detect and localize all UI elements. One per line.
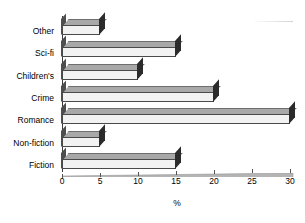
x-tick-label-0: 0 — [52, 176, 72, 186]
y-axis-label-children-s: Children's — [0, 72, 54, 81]
bar-front-face — [62, 25, 100, 35]
bar-front-face — [62, 47, 176, 57]
y-axis-label-romance: Romance — [0, 116, 54, 125]
bar-end-cap — [213, 79, 219, 102]
x-tick-30 — [290, 169, 291, 173]
x-tick-15 — [176, 171, 177, 175]
x-tick-label-10: 10 — [128, 176, 148, 186]
bar-end-cap — [289, 102, 295, 125]
y-axis-label-crime: Crime — [0, 94, 54, 103]
x-tick-label-20: 20 — [204, 176, 224, 186]
y-axis-label-fiction: Fiction — [0, 161, 54, 170]
y-axis-label-other: Other — [0, 27, 54, 36]
bar-end-cap — [175, 146, 181, 169]
bar-front-face — [62, 114, 290, 124]
y-axis-category-labels: OtherSci-fiChildren'sCrimeRomanceNon-fic… — [0, 14, 58, 172]
x-tick-20 — [214, 170, 215, 174]
x-tick-25 — [252, 169, 253, 173]
y-axis-label-sci-fi: Sci-fi — [0, 49, 54, 58]
chart-container: OtherSci-fiChildren'sCrimeRomanceNon-fic… — [0, 0, 305, 223]
bar-front-face — [62, 70, 138, 80]
x-tick-label-25: 25 — [242, 176, 262, 186]
y-axis-label-non-fiction: Non-fiction — [0, 139, 54, 148]
x-axis-title: % — [62, 198, 292, 208]
x-tick-label-15: 15 — [166, 176, 186, 186]
bar-front-face — [62, 92, 214, 102]
chart-title — [0, 0, 305, 1]
bar-end-cap — [175, 35, 181, 58]
bar-front-face — [62, 137, 100, 147]
x-tick-label-30: 30 — [280, 176, 300, 186]
x-tick-label-5: 5 — [90, 176, 110, 186]
plot-area — [62, 14, 294, 172]
x-axis: 051015202530 % — [62, 171, 302, 221]
